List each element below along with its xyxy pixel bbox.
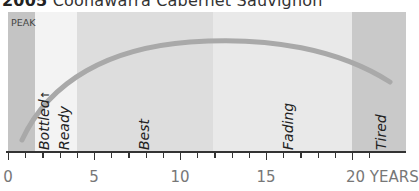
x-tick: [232, 152, 233, 158]
stage-label-best: Best: [136, 119, 152, 150]
x-tick: [163, 152, 164, 158]
x-tick-label-10: 10: [170, 168, 189, 186]
x-tick: [146, 152, 147, 158]
x-tick-label-5: 5: [89, 168, 99, 186]
x-tick: [266, 152, 267, 160]
x-tick: [8, 152, 9, 160]
x-tick: [249, 152, 250, 158]
x-tick: [318, 152, 319, 158]
x-tick-label-0: 0: [3, 168, 13, 186]
x-tick: [77, 152, 78, 158]
x-tick: [180, 152, 181, 160]
x-tick: [94, 152, 95, 160]
x-axis-line: [6, 151, 406, 153]
x-tick: [283, 152, 284, 158]
x-tick: [352, 152, 353, 160]
x-tick: [369, 152, 370, 158]
x-tick-label-15: 15: [256, 168, 275, 186]
x-tick: [197, 152, 198, 158]
x-tick-label-20: 20 YEARS: [346, 168, 419, 186]
x-tick: [60, 152, 61, 158]
x-tick: [25, 152, 26, 158]
x-tick: [300, 152, 301, 158]
stage-label-ready: Ready: [56, 106, 72, 150]
stage-label-tired: Tired: [373, 114, 389, 150]
x-tick: [214, 152, 215, 158]
stage-label-bottled: Bottled↑: [36, 90, 52, 150]
x-tick: [42, 152, 43, 158]
stage-label-fading: Fading: [280, 103, 296, 150]
x-tick: [111, 152, 112, 158]
x-tick: [128, 152, 129, 158]
x-tick: [335, 152, 336, 158]
